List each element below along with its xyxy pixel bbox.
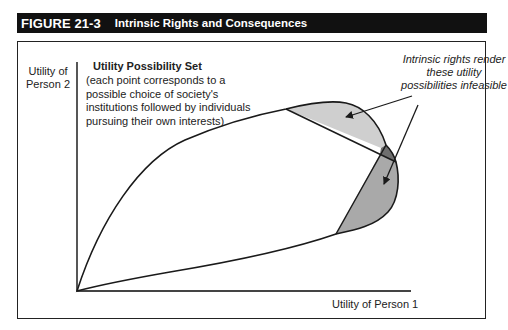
annotation-arrow-lower [384,105,418,184]
utility-set-description: (each point corresponds to a possible ch… [86,74,256,128]
y-axis-label: Utility of Person 2 [22,65,74,91]
infeasible-region-lower [336,154,398,234]
intrinsic-rights-annotation: Intrinsic rights render these utility po… [400,53,508,92]
utility-set-title: Utility Possibility Set [93,60,202,73]
x-axis-label: Utility of Person 1 [332,298,418,311]
